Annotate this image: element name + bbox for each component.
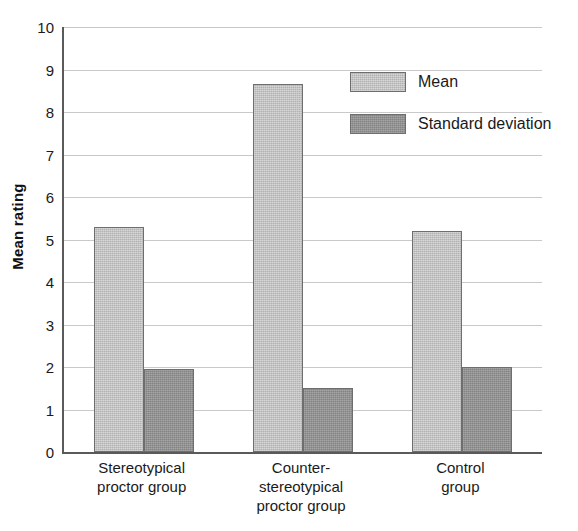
y-axis-tick-10: 10 (37, 20, 54, 35)
legend: MeanStandard deviation (350, 72, 551, 134)
bar-standard-deviation-group-2 (303, 388, 353, 452)
y-axis-tick-5: 5 (46, 232, 54, 247)
y-axis-tick-labels: 109876543210 (34, 27, 60, 452)
legend-item-sd: Standard deviation (350, 114, 551, 134)
bar-chart: Mean rating 109876543210 MeanStandard de… (0, 0, 578, 531)
x-axis-tick-label-2: Counter- stereotypical proctor group (256, 458, 345, 516)
y-axis-tick-9: 9 (46, 62, 54, 77)
legend-swatch-mean (350, 72, 406, 92)
y-axis-tick-3: 3 (46, 317, 54, 332)
y-axis-tick-0: 0 (46, 445, 54, 460)
x-axis-tick-label-1: Stereotypical proctor group (97, 458, 186, 496)
y-axis-tick-2: 2 (46, 360, 54, 375)
legend-item-mean: Mean (350, 72, 551, 92)
y-axis-tick-4: 4 (46, 275, 54, 290)
y-axis-tick-6: 6 (46, 190, 54, 205)
y-axis-title: Mean rating (0, 0, 34, 452)
bar-standard-deviation-group-3 (462, 367, 512, 452)
y-axis-tick-7: 7 (46, 147, 54, 162)
bar-standard-deviation-group-1 (144, 369, 194, 452)
x-axis-tick-label-3: Control group (436, 458, 484, 496)
x-axis-tick-labels: Stereotypical proctor groupCounter- ster… (62, 458, 540, 528)
y-axis-tick-8: 8 (46, 105, 54, 120)
y-axis-title-label: Mean rating (9, 183, 26, 269)
bar-mean-group-2 (253, 84, 303, 452)
bar-mean-group-3 (412, 231, 462, 452)
legend-label-sd: Standard deviation (418, 115, 551, 133)
bar-mean-group-1 (94, 227, 144, 452)
legend-swatch-sd (350, 114, 406, 134)
legend-label-mean: Mean (418, 73, 458, 91)
y-axis-tick-1: 1 (46, 402, 54, 417)
